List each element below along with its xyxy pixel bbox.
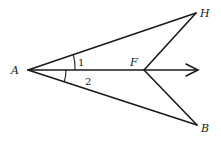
label-F: F bbox=[129, 56, 138, 69]
angle-arc-1 bbox=[73, 55, 75, 70]
label-B: B bbox=[200, 122, 209, 135]
label-angle-1: 1 bbox=[78, 57, 84, 68]
segment-AB bbox=[28, 70, 197, 125]
geometry-diagram: A H B F 1 2 bbox=[0, 0, 221, 142]
label-angle-2: 2 bbox=[85, 76, 91, 87]
label-H: H bbox=[199, 7, 210, 20]
angle-arc-2 bbox=[64, 70, 66, 82]
label-A: A bbox=[10, 64, 19, 77]
